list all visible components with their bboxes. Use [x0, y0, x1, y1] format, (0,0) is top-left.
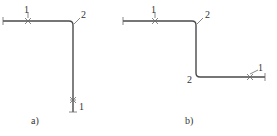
pipe-a	[3, 21, 73, 112]
label-a-weld-bottom: 1	[79, 101, 84, 112]
panel-a: 1 2 1 a)	[3, 4, 86, 127]
panel-b: 1 2 2 1 b)	[123, 4, 265, 127]
leader-a-bend	[74, 18, 80, 24]
caption-b: b)	[185, 115, 193, 127]
label-b-bend-top: 2	[205, 9, 210, 20]
pipe-diagram-figure: 1 2 1 a) 1 2 2	[0, 0, 277, 136]
weld-mark-b-right	[247, 70, 258, 80]
label-b-bend-bottom: 2	[187, 74, 192, 85]
label-a-weld-top: 1	[24, 4, 29, 15]
label-b-weld-right: 1	[258, 62, 263, 73]
label-b-weld-left: 1	[151, 4, 156, 15]
pipe-b	[123, 21, 265, 77]
caption-a: a)	[31, 115, 39, 127]
leader-b-bend-top	[197, 18, 203, 24]
label-a-bend: 2	[81, 9, 86, 20]
